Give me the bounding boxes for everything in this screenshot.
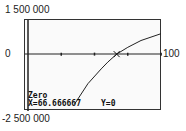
y-min-label: -2 500 000: [2, 114, 50, 124]
zero-x-value: X=66.666667: [28, 100, 81, 108]
x-origin-label: 0: [5, 49, 11, 59]
x-max-label: 100: [163, 49, 180, 59]
calculator-graph-screen: Zero X=66.666667 Y=0: [24, 19, 161, 110]
y-max-label: 1 500 000: [5, 5, 50, 15]
zero-y-value: Y=0: [101, 100, 115, 108]
function-curve: [75, 34, 162, 105]
